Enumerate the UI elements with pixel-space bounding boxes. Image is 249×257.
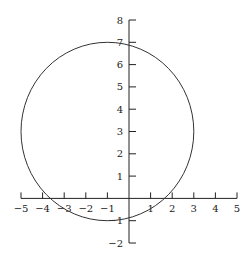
x-tick-label: 5 [234,203,240,214]
y-tick-label: 4 [117,104,123,115]
x-tick-label: 3 [191,203,197,214]
chart: −5−4−3−2−112345−2−112345678 [0,0,249,257]
x-tick-label: 2 [169,203,175,214]
y-tick-label: 5 [117,81,123,92]
y-tick-label: 1 [117,171,123,182]
y-tick-label: −2 [108,238,123,249]
y-tick-label: 3 [117,126,123,137]
y-tick-label: 6 [117,59,123,70]
x-tick-label: −4 [35,203,50,214]
x-tick-label: −2 [78,203,93,214]
y-tick-label: 8 [117,15,123,26]
x-tick-label: −5 [14,203,29,214]
x-tick-label: 4 [212,203,218,214]
tick-labels: −5−4−3−2−112345−2−112345678 [14,15,241,249]
y-tick-label: 7 [117,37,123,48]
x-tick-label: −1 [100,203,115,214]
y-tick-label: 2 [117,148,123,159]
